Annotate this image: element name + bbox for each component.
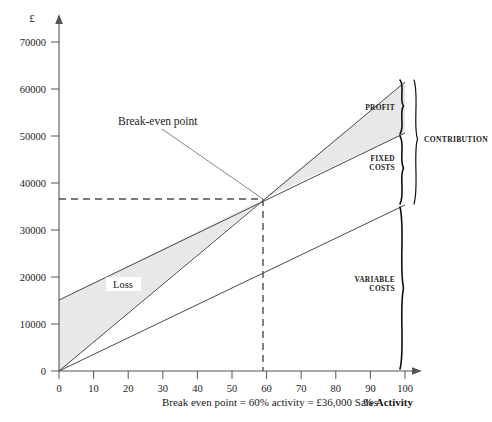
- sales-revenue-line: [59, 82, 405, 371]
- x-axis-arrow-icon: [412, 367, 422, 375]
- total-cost-line: [59, 133, 405, 300]
- y-tick-label-10000: 10000: [20, 319, 46, 330]
- y-tick-label-0: 0: [41, 366, 46, 377]
- x-tick-label-10: 10: [88, 383, 99, 394]
- y-tick-label-30000: 30000: [20, 225, 46, 236]
- chart-caption: Break even point = 60% activity = £36,00…: [162, 396, 378, 408]
- y-tick-label-60000: 60000: [20, 84, 46, 95]
- x-tick-label-0: 0: [56, 383, 61, 394]
- fixed-costs-brace-icon: [400, 136, 404, 204]
- y-tick-label-70000: 70000: [20, 37, 46, 48]
- fixed-costs-label-line1: FIXED: [371, 154, 396, 163]
- variable-costs-brace-icon: [400, 207, 404, 369]
- contribution-brace-icon: [414, 80, 418, 204]
- x-tick-label-30: 30: [158, 383, 169, 394]
- variable-costs-label-line2: COSTS: [369, 284, 395, 293]
- profit-label: PROFIT: [365, 103, 395, 112]
- y-axis-title: £: [29, 12, 35, 24]
- break-even-point-label: Break-even point: [118, 115, 198, 128]
- break-even-chart: 70000 60000 50000 40000 30000 20000 1000…: [0, 0, 492, 422]
- x-tick-label-40: 40: [192, 383, 203, 394]
- y-axis-arrow-icon: [55, 14, 63, 24]
- x-tick-label-20: 20: [123, 383, 134, 394]
- x-tick-label-80: 80: [331, 383, 342, 394]
- break-even-leader-line: [162, 129, 263, 199]
- y-tick-label-50000: 50000: [20, 131, 46, 142]
- contribution-label: CONTRIBUTION: [424, 135, 488, 144]
- variable-costs-label-line1: VARIABLE: [355, 275, 395, 284]
- x-tick-label-100: 100: [397, 383, 413, 394]
- y-tick-label-20000: 20000: [20, 272, 46, 283]
- x-tick-label-60: 60: [261, 383, 272, 394]
- x-tick-label-50: 50: [227, 383, 238, 394]
- x-tick-label-70: 70: [296, 383, 307, 394]
- break-even-chart-page: 70000 60000 50000 40000 30000 20000 1000…: [0, 0, 492, 422]
- x-tick-label-90: 90: [365, 383, 376, 394]
- loss-label: Loss: [113, 279, 133, 290]
- y-tick-label-40000: 40000: [20, 178, 46, 189]
- fixed-costs-label-line2: COSTS: [369, 163, 395, 172]
